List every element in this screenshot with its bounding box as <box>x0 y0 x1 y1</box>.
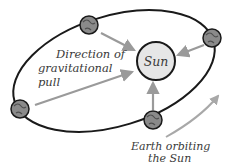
svg-text:the Sun: the Sun <box>148 152 191 163</box>
arrow-right <box>178 45 204 55</box>
orbit-direction-arrow <box>166 96 218 137</box>
sun: Sun <box>137 42 175 80</box>
sun-label: Sun <box>144 54 169 69</box>
svg-text:Direction of: Direction of <box>55 47 127 61</box>
earth-left <box>11 100 29 118</box>
earth-bottom <box>144 111 162 129</box>
earth-right <box>203 29 221 47</box>
pull-label: Direction of gravitational pull <box>38 47 127 89</box>
orbit-label: Earth orbiting the Sun <box>130 140 210 163</box>
orbit-diagram: Sun Direction of gravitational pull Eart… <box>0 0 228 163</box>
svg-text:gravitational: gravitational <box>38 61 113 75</box>
earth-top <box>80 16 98 34</box>
svg-text:pull: pull <box>38 75 60 89</box>
